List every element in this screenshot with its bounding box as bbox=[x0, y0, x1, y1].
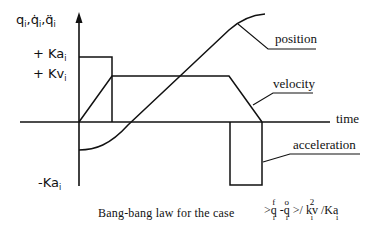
velocity-leader-line bbox=[253, 93, 313, 105]
caption-condition: >fqi -oqi >/ 2kvi /Kai bbox=[264, 198, 338, 222]
velocity-curve bbox=[79, 76, 262, 122]
caption-text: Bang-bang law for the case bbox=[98, 206, 234, 220]
gt-slash-symbol: >/ bbox=[293, 203, 303, 217]
tick-symbol: Kv bbox=[48, 66, 64, 81]
position-label: position bbox=[275, 31, 317, 47]
caption: Bang-bang law for the case bbox=[98, 206, 234, 221]
qddot-symbol: q̈ bbox=[45, 12, 53, 27]
tick-minus-ka: -Kai bbox=[38, 175, 61, 192]
tick-symbol: Ka bbox=[48, 46, 64, 61]
acceleration-label: acceleration bbox=[293, 137, 356, 153]
gt-symbol: > bbox=[264, 203, 271, 217]
qf-term: fqi bbox=[271, 198, 277, 222]
y-axis-label: qi,q̇i,q̈i bbox=[16, 12, 56, 29]
kv-term: 2kvi bbox=[306, 198, 318, 222]
tick-subscript: i bbox=[64, 54, 66, 63]
tick-plus-kv: + Kvi bbox=[33, 66, 67, 83]
qdot-symbol: q̇ bbox=[31, 12, 39, 27]
y-axis-arrow-icon bbox=[76, 12, 83, 23]
tick-plus-ka: + Kai bbox=[33, 46, 67, 63]
tick-subscript: i bbox=[64, 74, 66, 83]
tick-symbol: Ka bbox=[43, 175, 59, 190]
tick-prefix: + bbox=[33, 46, 44, 61]
velocity-label: velocity bbox=[273, 76, 315, 92]
acceleration-leader-line bbox=[263, 154, 360, 162]
tick-prefix: + bbox=[33, 66, 44, 81]
tick-subscript: i bbox=[59, 183, 61, 192]
qddot-subscript: i bbox=[54, 20, 56, 29]
acceleration-curve-positive bbox=[79, 57, 112, 122]
ka-term: /Kai bbox=[321, 198, 338, 222]
time-axis-label: time bbox=[336, 111, 359, 127]
acceleration-curve-negative bbox=[230, 122, 262, 185]
q0-term: oqi bbox=[284, 198, 290, 222]
